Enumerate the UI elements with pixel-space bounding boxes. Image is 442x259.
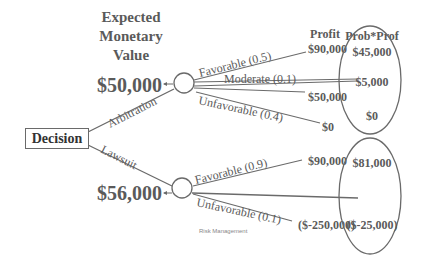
ev-title-line1: Expected (101, 9, 161, 25)
lawsuit-ev: $56,000 (97, 182, 162, 204)
ev-title-line2: Monetary (99, 28, 163, 44)
profit-value: $90,000 (308, 42, 347, 56)
prob-prof-value: ($-25,000) (347, 218, 398, 232)
outcome-label: Unfavorable (0.4) (197, 93, 284, 125)
outcome-label: Unfavorable (0.1) (195, 195, 282, 227)
prob-prof-value: $0 (366, 109, 378, 123)
profit-value: $90,000 (308, 154, 347, 168)
decision-node: Decision (25, 128, 89, 149)
arrow-left-icon (163, 191, 167, 195)
arrow-left-icon (163, 82, 167, 86)
prob-prof-value: $81,000 (353, 156, 392, 170)
arbitration-label: Arbitration (105, 94, 159, 131)
prob-prof-value: $45,000 (353, 45, 392, 59)
outcome-line-50000 (194, 88, 305, 92)
lawsuit-label: Lawsuit (99, 142, 140, 172)
arbitration-chance-node (174, 73, 194, 93)
outcome-label: Favorable (0.9) (193, 155, 268, 186)
decision-tree-diagram: Expected Monetary Value Profit Prob*Prof… (0, 0, 442, 259)
prob-prof-value: $5,000 (356, 75, 389, 89)
outcome-line-to-ellipse (192, 193, 358, 198)
lawsuit-chance-node (172, 178, 192, 198)
profit-value: $0 (322, 120, 334, 134)
ev-title-line3: Value (113, 47, 149, 63)
arbitration-ev: $50,000 (97, 74, 162, 96)
outcome-label: Moderate (0.1) (224, 72, 296, 86)
profit-header: Profit (310, 27, 340, 41)
footer-text: Risk Management (199, 228, 248, 234)
